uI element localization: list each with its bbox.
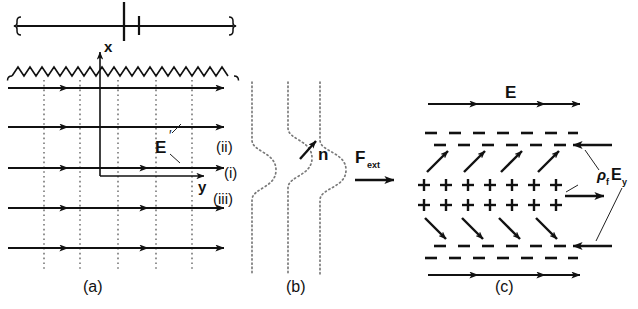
panel-caption-c: (c): [495, 278, 514, 295]
figure-diagram: x y E ′ (a) (ii) (i) (iii): [0, 0, 638, 309]
field-label-a: E: [155, 138, 166, 157]
force-arrows-c: [565, 145, 612, 246]
axis-y-label-a: y: [198, 178, 207, 195]
normal-vector-arrow: [300, 141, 316, 159]
wavy-line: [8, 67, 239, 81]
panel-a: x y E ′ (a): [8, 38, 239, 295]
force-label-fext-subscript: ext: [367, 160, 380, 170]
positive-charge-row-2: [418, 199, 562, 211]
axis-x-label-a: x: [104, 38, 113, 55]
positive-charge-row-1: [418, 179, 562, 191]
panel-c: E: [418, 83, 627, 295]
field-label-a-leaders: [170, 124, 181, 163]
force-label-e: E: [611, 166, 622, 183]
curve-label-iii: (iii): [213, 190, 233, 207]
normal-label-n: n: [318, 145, 328, 164]
wavefront-curve-3: [320, 82, 346, 275]
panel-caption-b: (b): [286, 278, 306, 295]
diagonal-arrows-up-c: [427, 151, 559, 172]
wavefront-curve-1: [252, 82, 276, 275]
curve-label-ii: (ii): [216, 138, 233, 155]
field-label-a-prime: ′: [169, 127, 172, 143]
force-label-rho: ρ: [596, 166, 606, 183]
scale-bar: [14, 2, 236, 41]
wavefront-curve-2: [288, 82, 312, 275]
figure-root: x y E ′ (a) (ii) (i) (iii): [0, 0, 638, 309]
force-label-fext: F: [355, 148, 365, 167]
force-label-rho-subscript: f: [606, 177, 610, 187]
diagonal-arrows-down-c: [425, 218, 557, 239]
panel-caption-a: (a): [83, 278, 103, 295]
force-label-e-subscript: y: [622, 177, 627, 187]
curve-label-i: (i): [224, 164, 237, 181]
field-label-c: E: [505, 83, 516, 102]
panel-b: (ii) (i) (iii) n F ext (b): [213, 82, 394, 295]
